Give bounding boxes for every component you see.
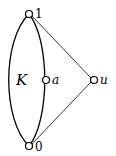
edge-0-u	[32, 82, 91, 144]
vertex-label-1: 1	[35, 7, 43, 21]
vertex-label-u: u	[100, 73, 108, 87]
edge-1-u	[32, 16, 91, 78]
vertex-1	[26, 11, 33, 18]
vertex-a	[43, 77, 50, 84]
graph-diagram: K 1 0 a u	[0, 0, 116, 156]
region-label-k: K	[15, 71, 28, 89]
vertex-label-a: a	[52, 73, 59, 87]
vertex-0	[26, 143, 33, 150]
vertex-label-0: 0	[35, 140, 43, 154]
vertex-u	[91, 77, 98, 84]
diagram-canvas: K 1 0 a u	[0, 0, 116, 156]
